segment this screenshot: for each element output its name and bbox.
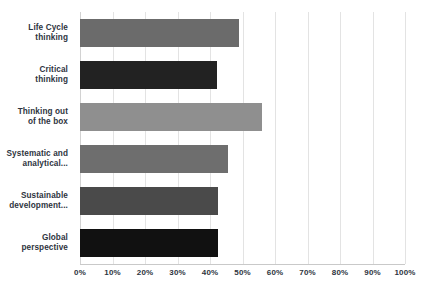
x-tick-label: 20% [137, 268, 153, 277]
x-tick-label: 70% [299, 268, 315, 277]
bar-row [80, 180, 405, 222]
x-tick-label: 100% [395, 268, 416, 277]
x-tick-label: 90% [364, 268, 380, 277]
bar [80, 19, 239, 47]
category-label: Critical thinking [0, 54, 74, 96]
plot-area [80, 12, 405, 264]
x-tick-label: 60% [267, 268, 283, 277]
gridline [405, 12, 406, 264]
category-label: Systematic and analytical... [0, 138, 74, 180]
category-label: Thinking out of the box [0, 96, 74, 138]
x-tick-label: 80% [332, 268, 348, 277]
x-tick-label: 50% [234, 268, 250, 277]
bar-chart: Life Cycle thinking Critical thinking Th… [0, 0, 432, 308]
bar-row [80, 12, 405, 54]
x-tick-label: 30% [169, 268, 185, 277]
bar [80, 61, 217, 89]
bar-row [80, 138, 405, 180]
bar [80, 187, 218, 215]
bar-series [80, 12, 405, 264]
x-axis-line [80, 264, 405, 265]
bar-row [80, 96, 405, 138]
bar [80, 103, 262, 131]
x-axis-ticks: 0%10%20%30%40%50%60%70%80%90%100% [80, 268, 405, 288]
x-tick-label: 40% [202, 268, 218, 277]
bar [80, 229, 218, 257]
category-label: Life Cycle thinking [0, 12, 74, 54]
bar-row [80, 222, 405, 264]
bar-row [80, 54, 405, 96]
x-tick-label: 10% [104, 268, 120, 277]
category-label: Sustainable development... [0, 180, 74, 222]
x-tick-label: 0% [74, 268, 86, 277]
bar [80, 145, 228, 173]
category-label: Global perspective [0, 222, 74, 264]
category-axis: Life Cycle thinking Critical thinking Th… [0, 12, 74, 264]
